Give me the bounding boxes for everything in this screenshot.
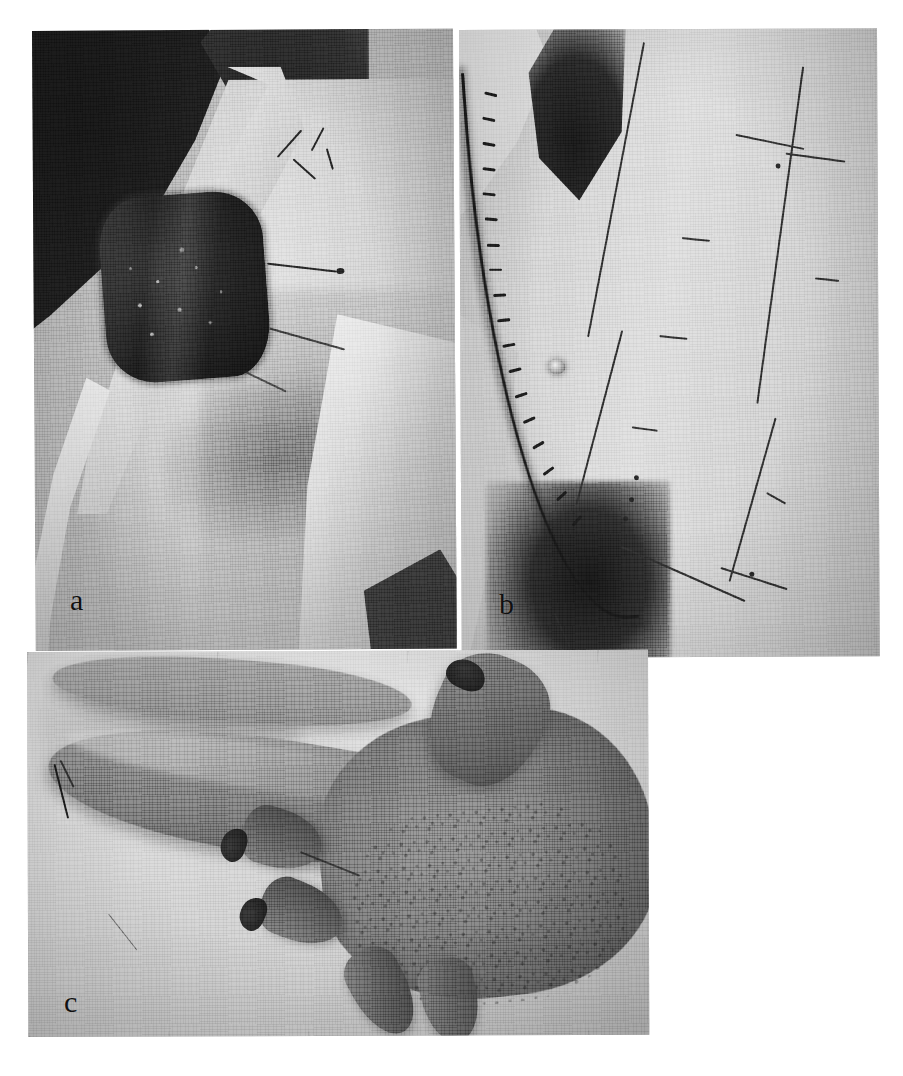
umbilicus — [548, 359, 565, 374]
panel-label-a: a — [70, 585, 83, 615]
ink-reference-dot — [775, 164, 780, 169]
figure-panel-a — [32, 28, 457, 651]
figure-panel-b — [459, 28, 880, 658]
panel-label-c: c — [64, 987, 77, 1017]
figure-panel-c — [27, 650, 649, 1037]
stitch — [487, 243, 500, 246]
excision-defect — [96, 188, 274, 386]
stitch — [489, 268, 502, 271]
stitch — [493, 293, 506, 296]
figure-plate: a — [0, 0, 903, 1076]
ink-reference-dot — [623, 516, 628, 521]
panel-label-b: b — [499, 589, 514, 619]
wound-granulation-texture — [96, 188, 274, 386]
